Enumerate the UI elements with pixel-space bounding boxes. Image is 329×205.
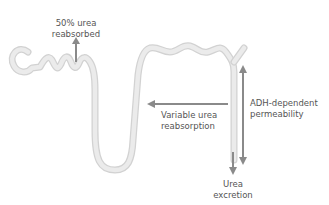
variable-label-line1: Variable urea	[161, 110, 217, 121]
proximal-label-line1: 50% urea	[48, 18, 104, 29]
nephron-tubule	[12, 46, 244, 170]
adh-permeability-arrow-icon	[239, 65, 247, 165]
excretion-label-line2: excretion	[210, 190, 256, 201]
variable-reabsorption-label: Variable urea reabsorption	[161, 110, 217, 131]
adh-label-line2: permeability	[250, 109, 318, 120]
adh-label-line1: ADH-dependent	[250, 98, 318, 109]
adh-permeability-label: ADH-dependent permeability	[250, 98, 318, 119]
variable-reabsorption-arrow-icon	[147, 100, 228, 108]
excretion-label-line1: Urea	[210, 179, 256, 190]
variable-label-line2: reabsorption	[161, 121, 217, 132]
proximal-reabsorption-label: 50% urea reabsorbed	[48, 18, 104, 39]
urea-excretion-label: Urea excretion	[210, 179, 256, 200]
proximal-label-line2: reabsorbed	[48, 29, 104, 40]
